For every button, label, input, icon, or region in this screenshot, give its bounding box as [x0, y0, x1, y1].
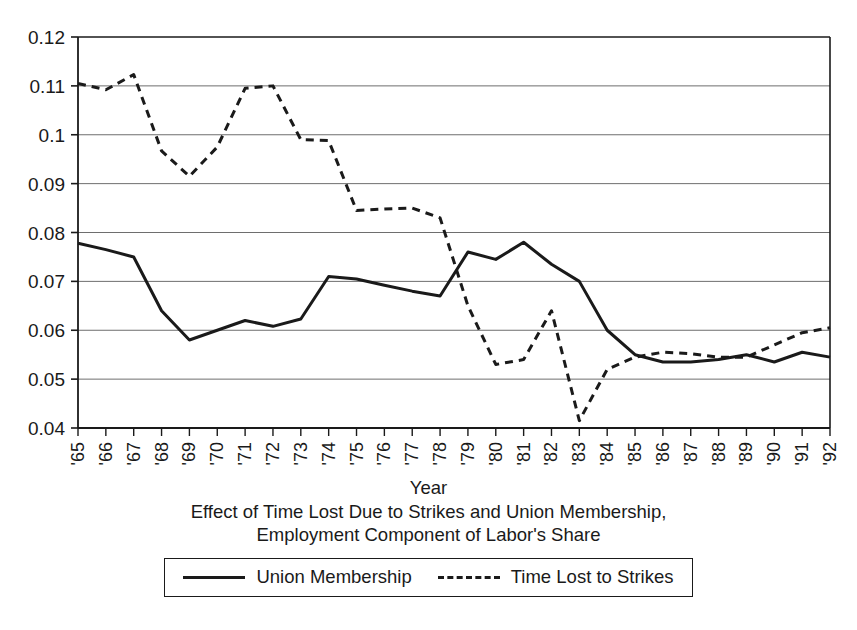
x-axis-tick-label: '66 — [96, 442, 116, 465]
legend-label-union-membership: Union Membership — [256, 566, 411, 588]
dashed-line-swatch-icon — [438, 576, 500, 579]
x-axis-tick-label: '68 — [152, 442, 172, 465]
legend-box: Union Membership Time Lost to Strikes — [164, 558, 692, 597]
y-axis-tick-label: 0.12 — [28, 27, 65, 48]
legend-label-time-lost-to-strikes: Time Lost to Strikes — [511, 566, 674, 588]
x-axis-tick-label: '79 — [458, 442, 478, 465]
chart-caption-line-2: Employment Component of Labor's Share — [0, 523, 857, 546]
legend-container: Union Membership Time Lost to Strikes — [0, 558, 857, 597]
data-series-line-time-lost-to-strikes — [78, 75, 830, 421]
x-axis-tick-label: '80 — [486, 442, 506, 465]
y-axis-tick-label: 0.1 — [39, 125, 65, 146]
x-axis-tick-label: '69 — [179, 442, 199, 465]
x-axis-tick-label: '86 — [653, 442, 673, 465]
x-axis-tick-label: '91 — [792, 442, 812, 465]
y-axis-tick-label: 0.05 — [28, 369, 65, 390]
legend-item-union-membership: Union Membership — [183, 566, 411, 588]
x-axis-tick-label: '74 — [319, 442, 339, 465]
x-axis-tick-label: '72 — [263, 442, 283, 465]
x-axis-tick-label: '83 — [569, 442, 589, 465]
legend-item-time-lost-to-strikes: Time Lost to Strikes — [438, 566, 674, 588]
chart-caption-line-1: Effect of Time Lost Due to Strikes and U… — [0, 500, 857, 523]
x-axis-tick-label: '77 — [402, 442, 422, 465]
chart-figure: 0.040.050.060.070.080.090.10.110.12'65'6… — [0, 0, 857, 630]
x-axis-tick-label: '85 — [625, 442, 645, 465]
x-axis-tick-label: '78 — [430, 442, 450, 465]
x-axis-tick-label: '89 — [736, 442, 756, 465]
chart-caption-block: Year Effect of Time Lost Due to Strikes … — [0, 476, 857, 546]
x-axis-tick-label: '67 — [124, 442, 144, 465]
x-axis-tick-label: '88 — [709, 442, 729, 465]
x-axis-tick-label: '75 — [347, 442, 367, 465]
x-axis-title: Year — [0, 476, 857, 499]
x-axis-tick-label: '71 — [235, 442, 255, 465]
y-axis-tick-label: 0.06 — [28, 320, 65, 341]
y-axis-tick-label: 0.04 — [28, 418, 65, 439]
x-axis-tick-label: '70 — [207, 442, 227, 465]
y-axis-tick-label: 0.09 — [28, 174, 65, 195]
x-axis-tick-label: '84 — [597, 442, 617, 465]
y-axis-tick-label: 0.08 — [28, 223, 65, 244]
x-axis-tick-label: '82 — [541, 442, 561, 465]
x-axis-tick-label: '65 — [68, 442, 88, 465]
x-axis-tick-label: '87 — [681, 442, 701, 465]
y-axis-tick-label: 0.07 — [28, 271, 65, 292]
solid-line-swatch-icon — [183, 576, 245, 579]
y-axis-tick-label: 0.11 — [29, 76, 65, 97]
x-axis-tick-label: '76 — [374, 442, 394, 465]
x-axis-tick-label: '81 — [514, 442, 534, 465]
x-axis-tick-label: '90 — [764, 442, 784, 465]
x-axis-tick-label: '92 — [820, 442, 840, 465]
x-axis-tick-label: '73 — [291, 442, 311, 465]
